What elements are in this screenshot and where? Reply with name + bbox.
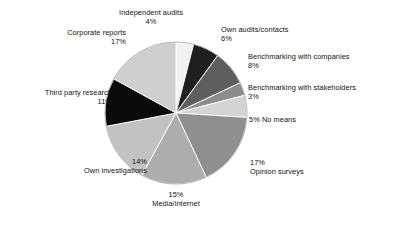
slice-label-media-internet-percent: 15% — [116, 190, 236, 199]
slice-label-corporate-reports: Corporate reports 17% — [30, 28, 126, 47]
slice-label-third-party-research: Third party research 11% — [8, 88, 112, 107]
slice-label-opinion-surveys-percent: 17% — [250, 158, 360, 167]
slice-label-third-party-research-name: Third party research — [45, 88, 112, 97]
slice-label-benchmarking-with-companies-name: Benchmarking with companies — [248, 52, 350, 61]
slice-label-benchmarking-with-companies: Benchmarking with companies 8% — [248, 52, 396, 71]
slice-label-independent-audits-name: Independent audits — [119, 8, 183, 17]
slice-label-own-audits-contacts: Own audits/contacts 6% — [221, 25, 351, 44]
slice-label-opinion-surveys-name: Opinion surveys — [250, 167, 304, 176]
slice-label-no-means-text: 5% No means — [249, 115, 296, 124]
slice-label-benchmarking-with-stakeholders-percent: 3% — [248, 92, 398, 101]
slice-label-no-means: 5% No means — [249, 115, 359, 124]
slice-label-benchmarking-with-stakeholders: Benchmarking with stakeholders 3% — [248, 83, 398, 102]
slice-label-media-internet: 15% Media/internet — [116, 190, 236, 209]
slice-label-own-investigations: 14% Own investigations — [31, 157, 147, 176]
slice-label-own-investigations-percent: 14% — [31, 157, 147, 166]
slice-label-benchmarking-with-stakeholders-name: Benchmarking with stakeholders — [248, 83, 356, 92]
pie-chart-figure: Independent audits 4% Corporate reports … — [0, 0, 398, 225]
slice-label-own-audits-contacts-name: Own audits/contacts — [221, 25, 289, 34]
slice-label-third-party-research-percent: 11% — [8, 97, 112, 106]
slice-label-benchmarking-with-companies-percent: 8% — [248, 61, 396, 70]
slice-label-media-internet-name: Media/internet — [152, 199, 200, 208]
slice-label-independent-audits: Independent audits 4% — [96, 8, 206, 27]
slice-label-corporate-reports-name: Corporate reports — [67, 28, 126, 37]
slice-label-opinion-surveys: 17% Opinion surveys — [250, 158, 360, 177]
slice-label-independent-audits-percent: 4% — [96, 17, 206, 26]
slice-label-own-investigations-name: Own investigations — [84, 166, 147, 175]
slice-label-corporate-reports-percent: 17% — [30, 37, 126, 46]
slice-label-own-audits-contacts-percent: 6% — [221, 34, 351, 43]
